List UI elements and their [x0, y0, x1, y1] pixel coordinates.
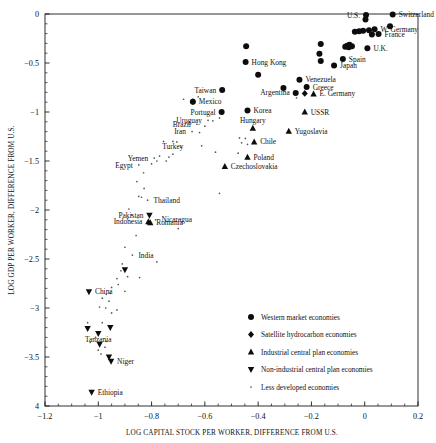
- data-point-dot: [101, 322, 103, 324]
- point-label: Switzerland: [399, 10, 435, 19]
- data-point-dot: [138, 195, 140, 197]
- point-label: Czechoslovakia: [231, 162, 279, 171]
- point-label: Yugoslavia: [295, 127, 329, 136]
- point-label: Iran: [174, 127, 186, 136]
- x-tick-label: −1: [94, 412, 103, 421]
- data-point-dot: [128, 208, 130, 210]
- point-label: U.S.: [347, 11, 360, 20]
- data-point-circle: [364, 45, 370, 51]
- data-point-dot: [105, 307, 107, 309]
- point-label: Tanzania: [85, 335, 112, 344]
- point-label: U.K.: [373, 44, 388, 53]
- point-label: Thailand: [154, 196, 181, 205]
- data-point-circle: [372, 26, 378, 32]
- data-point-dot: [127, 276, 129, 278]
- data-point-circle: [244, 108, 250, 114]
- data-point-dot: [159, 155, 161, 157]
- data-point-dot: [239, 137, 241, 139]
- data-point-dot: [237, 152, 239, 154]
- point-label: Niger: [117, 357, 134, 366]
- x-tick-label: −0.4: [251, 412, 266, 421]
- data-point-dot: [296, 97, 298, 99]
- data-point-circle: [342, 44, 348, 50]
- data-point-dot: [143, 188, 145, 190]
- x-tick-label: 0.2: [413, 412, 423, 421]
- data-point-dot: [207, 119, 209, 121]
- data-point-dot: [116, 309, 118, 311]
- chart-canvas: −1.2−1−0.8−0.6−0.4−0.200.2 0−0.5−1−1.5−2…: [0, 0, 436, 443]
- point-label: Korea: [253, 106, 272, 115]
- y-tick-label: 0: [35, 10, 39, 19]
- legend-label: Western market economies: [261, 313, 340, 322]
- point-label: Chile: [260, 137, 277, 146]
- data-point-dot: [183, 98, 185, 100]
- legend-label: Satellite hydrocarbon economies: [261, 330, 357, 339]
- data-point-circle: [369, 32, 375, 38]
- data-point-circle: [318, 58, 324, 64]
- data-point-dot: [141, 196, 143, 198]
- data-point-dot: [215, 151, 217, 153]
- data-point-circle: [352, 29, 358, 35]
- data-point-dot: [117, 284, 119, 286]
- x-tick-label: −0.8: [144, 412, 159, 421]
- data-point-dot: [156, 160, 158, 162]
- point-label: Hong Kong: [252, 58, 287, 67]
- point-label: Ethiopia: [98, 388, 124, 397]
- point-label: India: [138, 251, 154, 260]
- x-axis-title: LOG CAPITAL STOCK PER WORKER, DIFFERENCE…: [126, 429, 338, 437]
- y-tick-label: −3: [30, 304, 39, 313]
- point-label: Pakistan: [118, 211, 143, 220]
- legend-label: Less developed economies: [261, 383, 339, 392]
- data-point-circle: [331, 62, 337, 68]
- point-label: Poland: [253, 153, 274, 162]
- data-point-circle: [293, 90, 299, 96]
- data-point-dot: [136, 181, 138, 183]
- data-point-dot: [247, 143, 249, 145]
- data-point-circle: [243, 59, 249, 65]
- data-point-dot: [245, 138, 247, 140]
- data-point-circle: [219, 87, 225, 93]
- data-point-dot: [172, 153, 174, 155]
- legend-label: Industrial central plan economies: [261, 348, 358, 357]
- data-point-dot: [151, 163, 153, 165]
- x-tick-label: 0: [363, 412, 367, 421]
- y-tick-label: −3.5: [24, 353, 39, 362]
- point-label: Mexico: [199, 97, 222, 106]
- y-axis-title: LOG GDP PER WORKER, DIFFERENCE FROM U.S.: [8, 125, 16, 295]
- data-point-dot: [219, 117, 221, 119]
- data-point-dot: [97, 349, 99, 351]
- point-label: Hungary: [240, 116, 266, 125]
- point-label: Japan: [340, 61, 357, 70]
- data-point-circle: [318, 41, 324, 47]
- data-point-dot: [120, 270, 122, 272]
- data-point-dot: [135, 235, 137, 237]
- data-point-dot: [87, 322, 89, 324]
- data-point-dot: [165, 160, 167, 162]
- x-tick-label: −1.2: [38, 412, 53, 421]
- data-point-circle: [296, 77, 302, 83]
- data-point-dot: [124, 290, 126, 292]
- y-tick-label: −0.5: [24, 59, 39, 68]
- data-point-dot: [101, 297, 103, 299]
- point-label: Argentina: [260, 88, 290, 97]
- data-point-dot: [241, 142, 243, 144]
- data-point-dot: [138, 164, 140, 166]
- data-point-dot: [104, 346, 106, 348]
- x-tick-label: −0.2: [304, 412, 319, 421]
- chart-background: [0, 0, 436, 443]
- data-point-dot: [147, 199, 149, 201]
- data-point-dot: [100, 353, 102, 355]
- data-point-dot: [201, 145, 203, 147]
- data-point-circle: [243, 43, 249, 49]
- y-tick-label: −2.5: [24, 255, 39, 264]
- legend-marker-dot: [250, 386, 252, 388]
- data-point-dot: [139, 277, 141, 279]
- data-point-circle: [219, 109, 225, 115]
- point-label: USSR: [311, 108, 330, 117]
- data-point-circle: [255, 72, 261, 78]
- legend-label: Non-industrial central plan economies: [261, 365, 373, 374]
- legend-marker-circle: [248, 314, 254, 320]
- data-point-dot: [116, 278, 118, 280]
- data-point-dot: [124, 246, 126, 248]
- point-label: Turkey: [162, 142, 183, 151]
